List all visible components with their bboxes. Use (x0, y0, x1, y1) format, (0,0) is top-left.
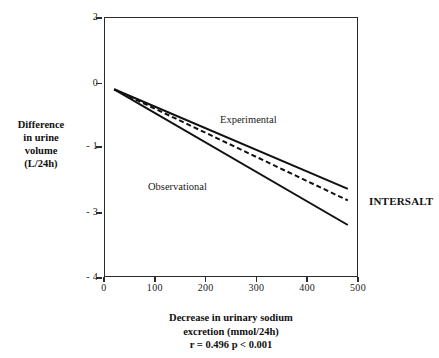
x-tick-mark (357, 277, 359, 282)
x-axis-title-line-2: excretion (mmol/24h) (104, 325, 358, 339)
y-axis-title-line-4: (L/24h) (4, 157, 78, 170)
x-tick-label: 100 (135, 282, 175, 293)
x-axis-title-line-1: Decrease in urinary sodium (104, 311, 358, 325)
x-tick-label: 300 (236, 282, 276, 293)
y-axis-title-line-3: volume (4, 144, 78, 157)
x-axis-title: Decrease in urinary sodium excretion (mm… (104, 311, 358, 352)
x-tick-label: 200 (186, 282, 226, 293)
x-tick-label: 500 (338, 282, 378, 293)
x-tick-mark (306, 277, 308, 282)
y-axis-title-line-1: Difference (4, 118, 78, 131)
x-tick-label: 400 (287, 282, 327, 293)
chart-figure: 20- 1- 3- 4 0100200300400500 Difference … (0, 0, 439, 358)
study-name-label: INTERSALT (369, 195, 433, 207)
y-axis-title: Difference in urine volume (L/24h) (4, 118, 78, 170)
y-axis-title-line-2: in urine (4, 131, 78, 144)
x-axis-tick-labels: 0100200300400500 (0, 0, 439, 358)
x-tick-mark (154, 277, 156, 282)
x-tick-mark (205, 277, 207, 282)
correlation-statistic: r = 0.496 p < 0.001 (104, 338, 358, 352)
x-tick-mark (256, 277, 258, 282)
series-label-observational: Observational (148, 181, 207, 193)
x-tick-mark (103, 277, 105, 282)
series-label-experimental: Experimental (220, 114, 277, 126)
x-tick-label: 0 (84, 282, 124, 293)
